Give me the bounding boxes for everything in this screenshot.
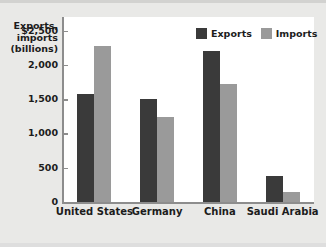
y-tick-label: 1,000 xyxy=(0,128,58,138)
legend-label-imports: Imports xyxy=(276,28,318,39)
bar-exports-saudi-arabia xyxy=(266,176,283,202)
y-tick-mark xyxy=(63,133,68,135)
chart-figure: Exports, imports (billions) $2,5002,0001… xyxy=(0,0,326,247)
bar-exports-germany xyxy=(140,99,157,202)
y-tick-mark xyxy=(63,65,68,67)
legend-swatch-imports-icon xyxy=(261,28,272,39)
y-tick-mark xyxy=(63,202,68,204)
y-tick-mark xyxy=(63,99,68,101)
bar-exports-china xyxy=(203,51,220,202)
figure-bottom-border xyxy=(0,243,326,247)
figure-top-border xyxy=(0,0,326,3)
legend-label-exports: Exports xyxy=(211,28,252,39)
x-axis-line xyxy=(62,202,314,204)
chart-legend: Exports Imports xyxy=(196,28,317,39)
bar-exports-united-states xyxy=(77,94,94,202)
y-axis-line xyxy=(62,17,64,203)
bar-imports-china xyxy=(220,84,237,202)
y-tick-mark xyxy=(63,168,68,170)
bar-imports-germany xyxy=(157,117,174,202)
legend-swatch-exports-icon xyxy=(196,28,207,39)
y-tick-label: $2,500 xyxy=(0,26,58,36)
y-tick-mark xyxy=(63,31,68,33)
y-tick-label: 500 xyxy=(0,163,58,173)
legend-item-exports[interactable]: Exports xyxy=(196,28,252,39)
x-axis-label-saudi-arabia: Saudi Arabia xyxy=(233,206,326,217)
legend-item-imports[interactable]: Imports xyxy=(261,28,318,39)
bar-imports-saudi-arabia xyxy=(283,192,300,202)
bars-layer xyxy=(63,17,314,202)
y-tick-label: 2,000 xyxy=(0,60,58,70)
y-tick-label: 1,500 xyxy=(0,94,58,104)
bar-imports-united-states xyxy=(94,46,111,202)
